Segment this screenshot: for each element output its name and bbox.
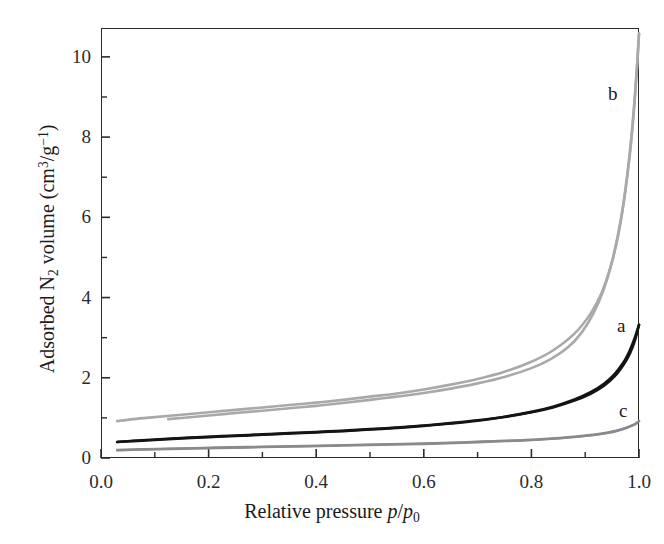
y-tick-label: 2 [82,368,92,387]
y-axis-title: Adsorbed N2 volume (cm3/g−1) [36,14,62,484]
y-tick-label: 4 [82,288,92,307]
y-axis-title-text: Adsorbed N2 volume (cm3/g−1) [36,125,58,374]
x-tick-label: 0.4 [286,472,346,491]
curve-label-b: b [608,84,618,103]
plot-area [101,28,639,458]
y-tick-label: 8 [82,127,92,146]
x-tick-label: 0.6 [394,472,454,491]
x-tick-label: 0.8 [501,472,561,491]
curve-label-a: a [617,316,625,335]
x-tick-label: 0.0 [71,472,131,491]
x-axis-title: Relative pressure p/p0 [0,500,664,526]
y-tick-label: 10 [72,47,91,66]
x-tick-label: 0.2 [179,472,239,491]
x-tick-label: 1.0 [609,472,664,491]
x-axis-title-text: Relative pressure p/p0 [244,500,420,522]
y-tick-label: 6 [82,207,92,226]
curve-label-c: c [619,401,627,420]
isotherm-figure: 0246810 0.00.20.40.60.81.0 Adsorbed N2 v… [0,0,664,544]
y-tick-label: 0 [82,448,92,467]
